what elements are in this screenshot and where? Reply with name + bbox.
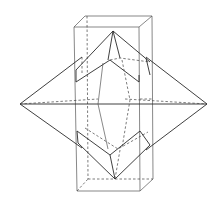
prism — [74, 16, 153, 191]
bipyramid — [20, 57, 207, 150]
geometric-diagram — [0, 0, 221, 205]
inner-edges — [98, 60, 130, 149]
